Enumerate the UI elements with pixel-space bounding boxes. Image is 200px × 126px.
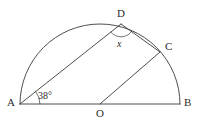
- point-label-o: O: [96, 108, 104, 119]
- point-label-c: C: [165, 41, 172, 52]
- angle-label-x: x: [117, 39, 121, 49]
- segment-dc: [121, 24, 160, 52]
- angle-label-38-degrees: 38°: [38, 91, 52, 101]
- angle-arc-at-d: [111, 32, 132, 37]
- geometry-figure: A B O C D 38° x: [0, 0, 200, 126]
- point-label-b: B: [184, 97, 191, 108]
- segment-ad: [20, 24, 121, 104]
- segment-oc: [100, 52, 160, 104]
- point-label-d: D: [117, 8, 125, 19]
- point-label-a: A: [7, 97, 15, 108]
